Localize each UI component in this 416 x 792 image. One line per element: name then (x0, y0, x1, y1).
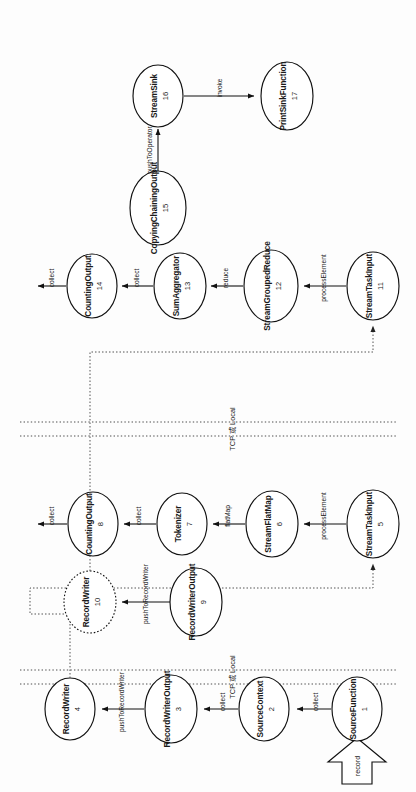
node-5-id: 5 (376, 522, 385, 526)
node-12-label: StreamGroupedReduce (263, 241, 272, 331)
node-12-id: 12 (274, 282, 283, 290)
node-3-id: 3 (174, 707, 183, 711)
edge-12-13: reduce (211, 268, 243, 288)
node-4-id: 4 (73, 707, 82, 711)
node-5-streamtaskinput[interactable]: StreamTaskInput 5 (347, 490, 399, 558)
node-16-label: StreamSink (150, 73, 159, 118)
node-11-id: 11 (376, 282, 385, 290)
divider-1-label: TCP 或 Local (228, 655, 237, 699)
node-11-streamtaskinput[interactable]: StreamTaskInput 11 (347, 252, 399, 320)
divider-2: TCP 或 Local (20, 407, 396, 451)
record-input-arrow-label: record (353, 756, 362, 776)
node-14-label: CountingOutput (84, 255, 93, 317)
node-4-label: RecordWriter (62, 683, 71, 734)
diagram-screenshot: TCP 或 Local TCP 或 Local record SourceFun… (0, 0, 416, 792)
edge-16-17: invoke (184, 78, 254, 97)
node-2-label: SourceContext (256, 680, 265, 737)
divider-2-label: TCP 或 Local (228, 407, 237, 451)
edge-5-6-label: processElement (320, 492, 328, 539)
edge-7-8-label: collect (135, 506, 142, 525)
node-15-label: CopyingChainingOutput (150, 161, 159, 254)
node-2-sourcecontext[interactable]: SourceContext 2 (239, 677, 289, 741)
edge-13-14-label: collect (133, 268, 140, 287)
node-9-label: RecordWriterOutput (188, 563, 197, 640)
edge-9-10: pushToRecordWriter (122, 563, 170, 624)
node-10-label: RecordWriter (82, 576, 91, 627)
node-9-recordwriteroutput[interactable]: RecordWriterOutput 9 (170, 563, 222, 640)
node-13-label: SumAggregator (172, 255, 181, 316)
edge-11-12: processElement (304, 254, 346, 301)
node-2-id: 2 (267, 707, 276, 711)
edge-11-12-label: processElement (320, 254, 328, 301)
edge-2-3-label: collect (219, 692, 226, 711)
node-6-label: StreamFlatMap (264, 495, 273, 552)
node-7-id: 7 (185, 522, 194, 526)
node-12-streamgroupedreduce[interactable]: StreamGroupedReduce 12 (244, 241, 298, 331)
node-15-id: 15 (161, 204, 170, 212)
node-9-id: 9 (199, 600, 208, 604)
node-6-id: 6 (275, 522, 284, 526)
edge-3-4: pushToRecordWriter (102, 671, 144, 732)
diagram-svg: TCP 或 Local TCP 或 Local record SourceFun… (0, 0, 416, 792)
diagram-canvas: TCP 或 Local TCP 或 Local record SourceFun… (0, 0, 416, 792)
edge-1-2-label: collect (312, 692, 319, 711)
node-5-label: StreamTaskInput (365, 491, 374, 556)
node-7-tokenizer[interactable]: Tokenizer 7 (157, 493, 207, 555)
node-7-label: Tokenizer (174, 505, 183, 543)
edge-9-10-label: pushToRecordWriter (142, 563, 150, 624)
node-6-streamflatmap[interactable]: StreamFlatMap 6 (246, 491, 298, 557)
node-15-copyingchainingoutput[interactable]: CopyingChainingOutput 15 (130, 161, 186, 254)
node-17-label: PrintSinkFunction (279, 62, 288, 131)
node-4-recordwriter[interactable]: RecordWriter 4 (45, 678, 95, 740)
node-1-id: 1 (360, 707, 369, 711)
node-17-id: 17 (290, 92, 299, 100)
node-13-id: 13 (183, 282, 192, 290)
node-16-id: 16 (161, 92, 170, 100)
edge-8-9: collect (38, 506, 67, 525)
edge-7-8: collect (124, 506, 156, 525)
node-14-id: 14 (95, 282, 104, 290)
node-10-recordwriter[interactable]: RecordWriter 10 (64, 571, 116, 633)
node-10-id: 10 (93, 598, 102, 606)
edge-8-9-label: collect (48, 506, 55, 525)
node-1-sourcefunction[interactable]: SourceFunction 1 (332, 677, 382, 741)
edge-5-6: processElement (304, 492, 346, 539)
edge-1-2: collect (297, 692, 331, 711)
node-8-countingoutput[interactable]: CountingOutput 8 (68, 492, 118, 556)
node-11-label: StreamTaskInput (365, 253, 374, 318)
node-8-id: 8 (96, 522, 105, 526)
edge-15-16-label: pushToOperator (146, 126, 154, 174)
rotation-wrapper: TCP 或 Local TCP 或 Local record SourceFun… (0, 0, 416, 792)
node-14-countingoutput[interactable]: CountingOutput 14 (67, 254, 117, 318)
edge-3-4-label: pushToRecordWriter (118, 671, 126, 732)
edge-6-7-label: flatMap (224, 505, 232, 527)
node-3-recordwriteroutput[interactable]: RecordWriterOutput 3 (145, 670, 197, 747)
edge-13-14: collect (122, 268, 153, 287)
node-3-label: RecordWriterOutput (163, 670, 172, 747)
edge-12-13-label: reduce (222, 268, 229, 288)
node-17-printsinkfunction[interactable]: PrintSinkFunction 17 (261, 62, 313, 131)
edge-16-17-label: invoke (216, 78, 223, 97)
node-16-streamsink[interactable]: StreamSink 16 (133, 65, 183, 127)
edge-6-7: flatMap (213, 505, 245, 527)
node-13-sumaggregator[interactable]: SumAggregator 13 (154, 253, 206, 319)
edge-14-15-label: collect (48, 268, 55, 287)
record-input-arrow: record (328, 738, 386, 784)
node-1-label: SourceFunction (349, 678, 358, 739)
edge-14-15: collect (38, 268, 66, 287)
